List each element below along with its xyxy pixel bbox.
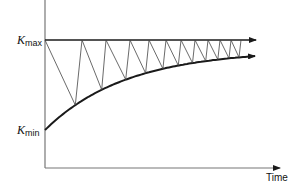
- sawtooth-lines: [45, 40, 241, 105]
- x-axis-label: Time: [266, 173, 288, 183]
- k-min-label: Kmin: [17, 124, 40, 136]
- k-max-label: Kmax: [17, 34, 42, 46]
- saw-tooth-diagram: [0, 0, 293, 185]
